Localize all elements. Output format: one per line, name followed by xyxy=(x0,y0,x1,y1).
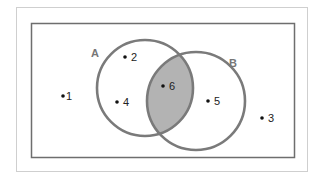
venn-diagram: A B 1 2 3 4 5 6 xyxy=(0,0,322,179)
point-2-label: 2 xyxy=(131,51,137,63)
point-6-label: 6 xyxy=(169,80,175,92)
set-a-label: A xyxy=(91,47,99,59)
point-1-label: 1 xyxy=(66,90,72,102)
set-b-label: B xyxy=(229,57,237,69)
point-5-label: 5 xyxy=(214,95,220,107)
point-3-label: 3 xyxy=(268,112,274,124)
point-4-label: 4 xyxy=(123,96,129,108)
